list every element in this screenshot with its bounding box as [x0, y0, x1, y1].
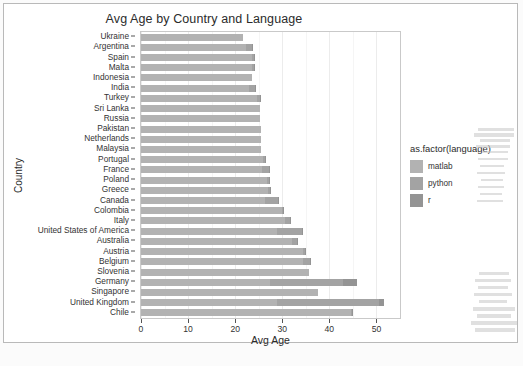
bar-row[interactable]: [141, 146, 261, 153]
bar-segment-python[interactable]: [262, 166, 270, 173]
x-tick-label: 40: [325, 324, 335, 334]
clipped-edge-artifact: [475, 279, 511, 282]
y-tick-label: Greece: [102, 185, 129, 193]
bar-segment-matlab[interactable]: [141, 54, 252, 61]
bar-row[interactable]: [141, 64, 254, 71]
bar-segment-matlab[interactable]: [141, 197, 265, 204]
bar-segment-matlab[interactable]: [141, 238, 292, 245]
bar-row[interactable]: [141, 228, 302, 235]
bar-series-container: [141, 32, 400, 318]
bar-row[interactable]: [141, 269, 309, 276]
y-tick-label: Belgium: [99, 257, 129, 265]
bar-segment-matlab[interactable]: [141, 289, 318, 296]
bar-segment-matlab[interactable]: [141, 136, 261, 143]
bar-row[interactable]: [141, 126, 261, 133]
bar-row[interactable]: [141, 207, 284, 214]
bar-row[interactable]: [141, 166, 270, 173]
bar-row[interactable]: [141, 44, 253, 51]
y-tick-label: Singapore: [91, 287, 129, 295]
bar-segment-matlab[interactable]: [141, 299, 277, 306]
bar-row[interactable]: [141, 279, 357, 286]
bar-row[interactable]: [141, 258, 310, 265]
y-tick-label: Slovenia: [97, 267, 129, 275]
bar-segment-matlab[interactable]: [141, 177, 267, 184]
bar-segment-matlab[interactable]: [141, 115, 260, 122]
bar-segment-python[interactable]: [303, 258, 310, 265]
bar-segment-python[interactable]: [246, 44, 253, 51]
bar-segment-matlab[interactable]: [141, 146, 261, 153]
clipped-edge-artifact: [471, 321, 517, 325]
bar-row[interactable]: [141, 177, 269, 184]
bar-segment-matlab[interactable]: [141, 34, 243, 41]
bar-segment-matlab[interactable]: [141, 105, 260, 112]
page-title: Avg Age by Country and Language: [4, 12, 404, 26]
bar-row[interactable]: [141, 95, 260, 102]
bar-row[interactable]: [141, 299, 384, 306]
y-tick-label: Malta: [109, 63, 129, 71]
bar-segment-matlab[interactable]: [141, 126, 261, 133]
bar-segment-matlab[interactable]: [141, 228, 277, 235]
y-tick-label: Poland: [103, 175, 129, 183]
y-tick-mark: [131, 179, 135, 180]
bar-segment-matlab[interactable]: [141, 74, 252, 81]
bar-segment-matlab[interactable]: [141, 279, 270, 286]
bar-segment-matlab[interactable]: [141, 207, 282, 214]
bar-segment-matlab[interactable]: [141, 217, 285, 224]
bar-segment-matlab[interactable]: [141, 309, 351, 316]
bar-segment-matlab[interactable]: [141, 269, 309, 276]
bar-segment-matlab[interactable]: [141, 248, 303, 255]
bar-row[interactable]: [141, 289, 318, 296]
y-tick-label: Australia: [97, 236, 129, 244]
y-tick-label: United Kingdom: [70, 298, 129, 306]
y-tick-mark: [131, 219, 135, 220]
bar-row[interactable]: [141, 105, 260, 112]
bar-row[interactable]: [141, 54, 255, 61]
y-tick-label: Argentina: [93, 42, 129, 50]
bar-row[interactable]: [141, 74, 252, 81]
bar-segment-matlab[interactable]: [141, 44, 246, 51]
y-tick-label: Spain: [108, 52, 129, 60]
bar-row[interactable]: [141, 217, 290, 224]
bar-segment-matlab[interactable]: [141, 156, 263, 163]
x-axis-title: Avg Age: [140, 334, 401, 346]
clipped-edge-artifact: [477, 200, 503, 202]
bar-row[interactable]: [141, 115, 260, 122]
x-tick-label: 20: [230, 324, 240, 334]
bar-row[interactable]: [141, 136, 261, 143]
y-tick-mark: [131, 281, 135, 282]
y-tick-label: Colombia: [94, 206, 129, 214]
bar-segment-python[interactable]: [277, 228, 301, 235]
bar-row[interactable]: [141, 248, 305, 255]
bar-segment-python[interactable]: [270, 279, 343, 286]
y-tick-label: Sri Lanka: [94, 103, 129, 111]
bar-segment-r[interactable]: [379, 299, 384, 306]
y-tick-label: Netherlands: [84, 134, 129, 142]
clipped-edge-artifact: [479, 300, 507, 303]
bar-row[interactable]: [141, 187, 270, 194]
bar-segment-matlab[interactable]: [141, 258, 303, 265]
bar-row[interactable]: [141, 197, 279, 204]
bar-segment-matlab[interactable]: [141, 95, 257, 102]
y-tick-mark: [131, 117, 135, 118]
bar-row[interactable]: [141, 34, 243, 41]
bar-segment-matlab[interactable]: [141, 64, 252, 71]
bar-segment-matlab[interactable]: [141, 166, 262, 173]
y-tick-mark: [131, 301, 135, 302]
bar-segment-r[interactable]: [343, 279, 356, 286]
y-tick-label: Turkey: [104, 93, 129, 101]
clipped-edge-artifact: [480, 139, 510, 142]
plot-panel: [140, 31, 401, 319]
y-tick-mark: [131, 311, 135, 312]
x-tick-mark: [235, 319, 236, 323]
bar-row[interactable]: [141, 85, 255, 92]
bar-row[interactable]: [141, 156, 266, 163]
y-axis-tick-labels: UkraineArgentinaSpainMaltaIndonesiaIndia…: [4, 31, 135, 319]
bar-segment-matlab[interactable]: [141, 85, 249, 92]
clipped-edge-artifact: [477, 314, 511, 318]
clipped-edge-artifact: [480, 165, 504, 167]
bar-row[interactable]: [141, 309, 353, 316]
bar-row[interactable]: [141, 238, 298, 245]
bar-segment-python[interactable]: [277, 299, 380, 306]
bar-segment-matlab[interactable]: [141, 187, 268, 194]
bar-segment-python[interactable]: [265, 197, 278, 204]
